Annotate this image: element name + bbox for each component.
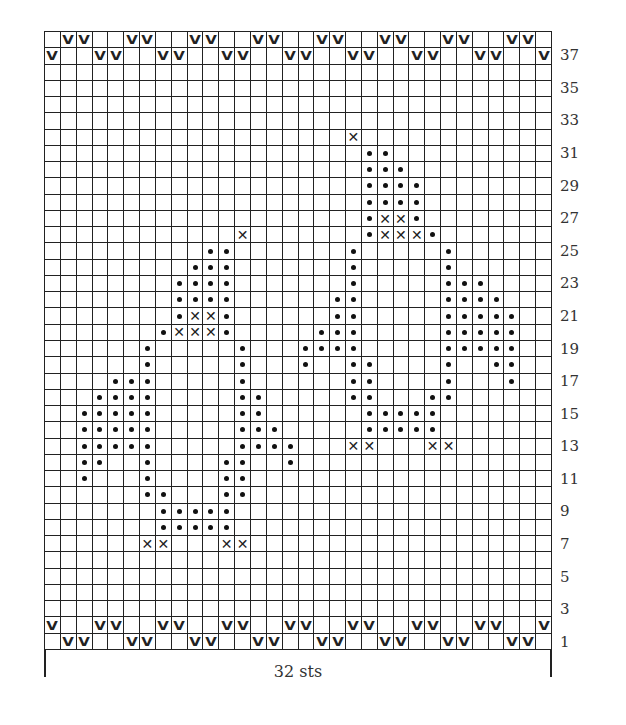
chart-cell <box>172 520 188 536</box>
chart-cell <box>441 585 457 601</box>
chart-cell <box>362 455 378 471</box>
dot-stitch-icon <box>82 427 87 432</box>
chart-cell <box>124 536 140 552</box>
chart-cell <box>140 81 156 97</box>
chart-cell <box>140 406 156 422</box>
v-stitch-icon: V <box>316 33 328 46</box>
dot-stitch-icon <box>367 216 372 221</box>
dot-stitch-icon <box>193 525 198 530</box>
chart-cell <box>314 65 330 81</box>
chart-cell <box>203 146 219 162</box>
v-stitch-icon: V <box>474 49 486 62</box>
chart-cell <box>251 81 267 97</box>
chart-cell <box>520 357 536 373</box>
chart-cell <box>219 471 235 487</box>
chart-cell <box>188 471 204 487</box>
chart-cell: V <box>504 32 520 48</box>
chart-cell: V <box>394 634 410 650</box>
chart-cell <box>425 520 441 536</box>
chart-cell <box>409 585 425 601</box>
chart-cell <box>520 81 536 97</box>
chart-cell <box>61 276 77 292</box>
chart-cell <box>504 325 520 341</box>
chart-cell <box>61 211 77 227</box>
chart-cell <box>441 243 457 259</box>
chart-cell <box>251 65 267 81</box>
dot-stitch-icon <box>224 314 229 319</box>
chart-cell <box>489 65 505 81</box>
chart-cell <box>520 130 536 146</box>
chart-cell <box>457 65 473 81</box>
chart-cell <box>203 195 219 211</box>
dot-stitch-icon <box>398 167 403 172</box>
chart-cell <box>473 32 489 48</box>
chart-cell <box>489 260 505 276</box>
v-stitch-icon: V <box>284 619 296 632</box>
chart-cell <box>267 504 283 520</box>
chart-cell <box>124 243 140 259</box>
chart-cell <box>156 227 172 243</box>
chart-cell <box>124 97 140 113</box>
chart-cell <box>251 146 267 162</box>
chart-cell: V <box>473 48 489 64</box>
x-stitch-icon: ✕ <box>237 228 249 242</box>
chart-cell <box>489 243 505 259</box>
chart-cell <box>473 113 489 129</box>
chart-cell <box>235 32 251 48</box>
chart-cell: V <box>299 48 315 64</box>
chart-cell <box>299 455 315 471</box>
chart-cell <box>203 113 219 129</box>
chart-cell <box>108 325 124 341</box>
chart-cell <box>504 471 520 487</box>
chart-cell <box>124 260 140 276</box>
chart-cell <box>299 536 315 552</box>
chart-cell <box>267 130 283 146</box>
chart-cell <box>124 390 140 406</box>
chart-cell <box>203 617 219 633</box>
chart-cell <box>172 243 188 259</box>
chart-cell <box>77 536 93 552</box>
chart-cell <box>93 32 109 48</box>
chart-cell <box>520 601 536 617</box>
dot-stitch-icon <box>478 330 483 335</box>
chart-cell <box>504 162 520 178</box>
chart-cell <box>235 585 251 601</box>
chart-cell <box>457 487 473 503</box>
chart-cell <box>45 439 61 455</box>
v-stitch-icon: V <box>427 49 439 62</box>
chart-cell <box>156 422 172 438</box>
chart-cell <box>156 520 172 536</box>
chart-cell <box>45 374 61 390</box>
chart-cell <box>441 195 457 211</box>
chart-cell <box>108 585 124 601</box>
chart-cell: V <box>394 32 410 48</box>
chart-cell <box>156 634 172 650</box>
chart-cell <box>283 81 299 97</box>
chart-cell: ✕ <box>378 227 394 243</box>
chart-cell <box>362 374 378 390</box>
chart-cell <box>124 341 140 357</box>
chart-cell <box>219 439 235 455</box>
dot-stitch-icon <box>462 281 467 286</box>
chart-cell <box>314 585 330 601</box>
dot-stitch-icon <box>367 395 372 400</box>
chart-cell <box>267 617 283 633</box>
chart-cell <box>394 308 410 324</box>
chart-cell <box>441 617 457 633</box>
chart-cell <box>235 162 251 178</box>
chart-cell <box>283 374 299 390</box>
v-stitch-icon: V <box>522 635 534 648</box>
dot-stitch-icon <box>446 265 451 270</box>
chart-cell <box>378 276 394 292</box>
v-stitch-icon: V <box>78 33 90 46</box>
chart-cell <box>520 260 536 276</box>
chart-cell <box>346 292 362 308</box>
chart-cell <box>314 227 330 243</box>
chart-cell <box>219 390 235 406</box>
chart-cell <box>362 243 378 259</box>
chart-cell <box>457 569 473 585</box>
chart-cell <box>536 325 552 341</box>
dot-stitch-icon <box>303 346 308 351</box>
chart-cell <box>299 552 315 568</box>
chart-cell <box>156 406 172 422</box>
